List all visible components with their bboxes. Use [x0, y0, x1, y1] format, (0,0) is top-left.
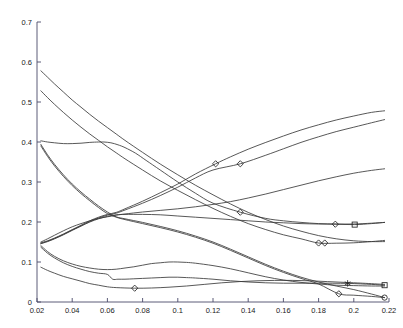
y-tick-label: 0.1	[22, 258, 32, 267]
x-tick-label: 0.14	[241, 306, 256, 315]
y-tick-label: 0.6	[22, 58, 32, 67]
y-tick-label: 0.5	[22, 98, 32, 107]
y-tick-label: 0.4	[22, 138, 32, 147]
x-tick-label: 0.06	[100, 306, 115, 315]
y-tick-label: 0.3	[22, 178, 32, 187]
x-tick-label: 0.16	[276, 306, 291, 315]
x-tick-label: 0.02	[30, 306, 45, 315]
x-tick-label: 0.22	[382, 306, 397, 315]
x-tick-label: 0.12	[206, 306, 221, 315]
x-tick-label: 0.04	[65, 306, 80, 315]
y-tick-label: 0.7	[22, 18, 32, 27]
x-tick-label: 0.1	[173, 306, 183, 315]
figure-container: 00.10.20.30.40.50.60.7 0.020.040.060.080…	[0, 0, 403, 328]
x-tick-label: 0.18	[311, 306, 326, 315]
line-chart: 00.10.20.30.40.50.60.7 0.020.040.060.080…	[0, 0, 403, 328]
y-tick-label: 0.2	[22, 218, 32, 227]
x-tick-label: 0.2	[349, 306, 359, 315]
x-tick-label: 0.08	[135, 306, 150, 315]
